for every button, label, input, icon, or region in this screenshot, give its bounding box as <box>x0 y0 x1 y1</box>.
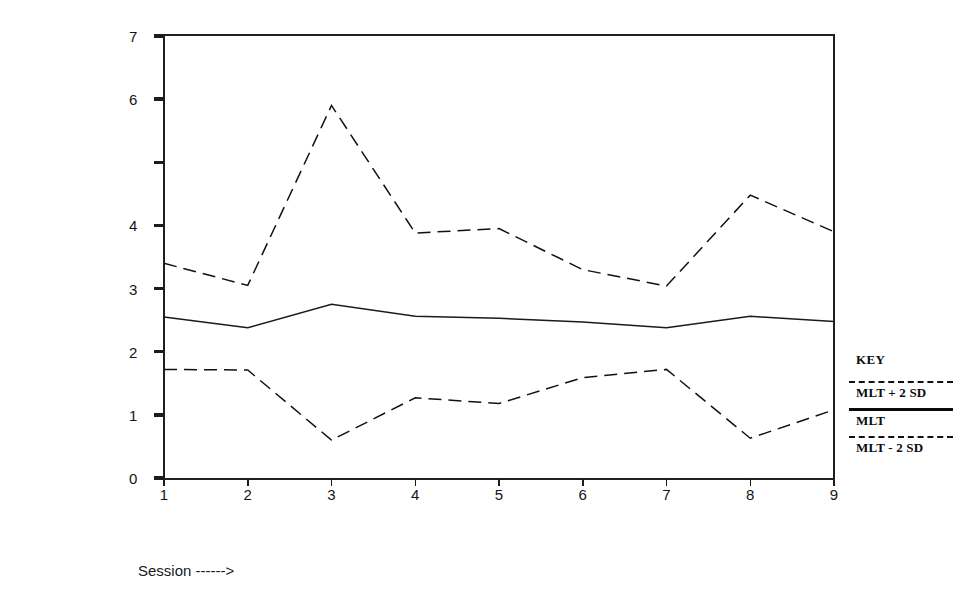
x-tick-mark-7 <box>666 479 668 486</box>
series-line-mlt-2-sd <box>164 369 834 440</box>
y-tick-label: 2 <box>129 344 137 359</box>
y-tick-label: 6 <box>129 92 137 107</box>
y-tick-label: 3 <box>129 281 137 296</box>
legend-swatch-dashed <box>849 381 953 383</box>
x-tick-label: 3 <box>327 487 335 502</box>
series-line-mlt-2-sd <box>164 105 834 286</box>
x-tick-label: 1 <box>160 487 168 502</box>
x-tick-label: 2 <box>244 487 252 502</box>
legend-title: KEY <box>849 352 959 368</box>
legend-entry: MLT + 2 SD <box>849 381 959 408</box>
x-tick-mark-5 <box>498 479 500 486</box>
x-tick-label: 9 <box>830 487 838 502</box>
y-tick-label: 4 <box>129 218 137 233</box>
y-tick-label: 0 <box>129 471 137 486</box>
x-tick-mark-4 <box>415 479 417 486</box>
x-tick-mark-1 <box>163 479 165 486</box>
legend-label: MLT <box>849 413 959 436</box>
legend-swatch-solid <box>849 408 953 411</box>
x-tick-mark-3 <box>331 479 333 486</box>
series-line-mlt <box>164 304 834 327</box>
plot-area: 0123467 123456789 <box>163 34 835 480</box>
x-axis-caption: Session ------> <box>138 562 234 579</box>
x-tick-label: 7 <box>662 487 670 502</box>
x-tick-label: 5 <box>495 487 503 502</box>
legend-entry: MLT - 2 SD <box>849 436 959 463</box>
legend-label: MLT + 2 SD <box>849 385 959 408</box>
legend-label: MLT - 2 SD <box>849 440 959 463</box>
legend-swatch-dashed <box>849 436 953 438</box>
x-tick-label: 4 <box>411 487 419 502</box>
legend-entry: MLT <box>849 408 959 436</box>
x-tick-mark-2 <box>247 479 249 486</box>
x-tick-mark-9 <box>833 479 835 486</box>
x-tick-mark-6 <box>582 479 584 486</box>
y-tick-label: 1 <box>129 407 137 422</box>
legend-entries: MLT + 2 SDMLTMLT - 2 SD <box>849 381 959 463</box>
series-layer <box>163 34 835 480</box>
chart-page: Number of acts per turn 0123467 12345678… <box>0 0 968 605</box>
legend-key: KEY MLT + 2 SDMLTMLT - 2 SD <box>849 352 959 463</box>
x-tick-mark-8 <box>750 479 752 486</box>
x-tick-label: 6 <box>579 487 587 502</box>
x-tick-label: 8 <box>746 487 754 502</box>
y-tick-label: 7 <box>129 29 137 44</box>
y-axis-title: Number of acts per turn <box>0 0 40 605</box>
